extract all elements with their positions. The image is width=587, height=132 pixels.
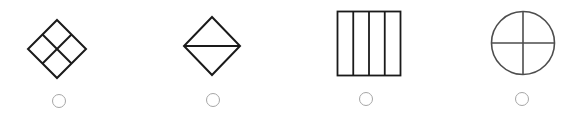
diamond-grid-shape-icon bbox=[28, 20, 86, 78]
option-3-radio[interactable] bbox=[359, 92, 373, 106]
option-1-radio[interactable] bbox=[52, 94, 66, 108]
option-2-radio[interactable] bbox=[206, 93, 220, 107]
square-columns-shape-icon bbox=[338, 12, 401, 76]
diamond-split-shape-icon bbox=[184, 17, 240, 75]
circle-quartered-shape-icon bbox=[492, 12, 555, 75]
option-4-radio[interactable] bbox=[515, 92, 529, 106]
shapes-canvas bbox=[0, 0, 587, 132]
